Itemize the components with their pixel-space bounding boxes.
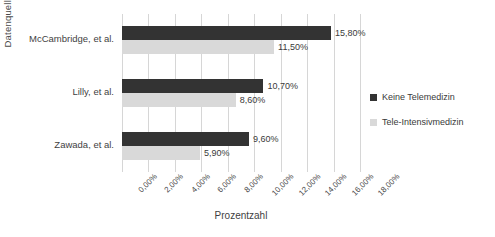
- legend-item[interactable]: Tele-Intensivmedizin: [370, 117, 492, 127]
- x-axis-tick-label: 0,00%: [137, 172, 159, 194]
- bar-value-label: 5,90%: [204, 146, 230, 160]
- legend-swatch-icon: [370, 94, 377, 101]
- bar: [122, 146, 200, 160]
- chart-legend: Keine TelemedizinTele-Intensivmedizin: [370, 92, 492, 142]
- x-axis-tick-label: 4,00%: [190, 172, 212, 194]
- category-axis-label: Lilly, et al.: [16, 86, 114, 97]
- x-axis-tick-label: 14,00%: [323, 172, 349, 198]
- bar-value-label: 11,50%: [278, 40, 308, 54]
- legend-item[interactable]: Keine Telemedizin: [370, 92, 492, 102]
- bar-value-label: 10,70%: [267, 79, 298, 93]
- category-axis-labels: McCambridge, et al.Lilly, et al.Zawada, …: [20, 14, 118, 172]
- x-axis-tick-label: 16,00%: [349, 172, 375, 198]
- bar-chart: Datenquelle McCambridge, et al.Lilly, et…: [0, 0, 495, 237]
- legend-label: Keine Telemedizin: [382, 92, 455, 102]
- legend-label: Tele-Intensivmedizin: [382, 117, 464, 127]
- category-axis-label: McCambridge, et al.: [16, 33, 114, 44]
- x-axis-tick-label: 8,00%: [242, 172, 264, 194]
- bar: [122, 132, 249, 146]
- plot-area: 15,80%11,50%10,70%8,60%9,60%5,90%: [122, 14, 360, 172]
- bar-value-label: 15,80%: [335, 26, 366, 40]
- bar: [122, 93, 236, 107]
- legend-swatch-icon: [370, 119, 377, 126]
- x-axis-tick-labels: 0,00%2,00%4,00%6,00%8,00%10,00%12,00%14,…: [122, 172, 360, 206]
- bar: [122, 26, 331, 40]
- bar-value-label: 9,60%: [253, 132, 279, 146]
- x-axis-tick-label: 12,00%: [297, 172, 323, 198]
- x-axis-tick-label: 10,00%: [270, 172, 296, 198]
- bar: [122, 79, 263, 93]
- x-axis-tick-label: 2,00%: [163, 172, 185, 194]
- bar-value-label: 8,60%: [240, 93, 266, 107]
- bar: [122, 40, 274, 54]
- category-axis-label: Zawada, et al.: [16, 139, 114, 150]
- x-axis-tick-label: 18,00%: [376, 172, 402, 198]
- x-axis-title: Prozentzahl: [122, 210, 360, 221]
- x-axis-tick-label: 6,00%: [216, 172, 238, 194]
